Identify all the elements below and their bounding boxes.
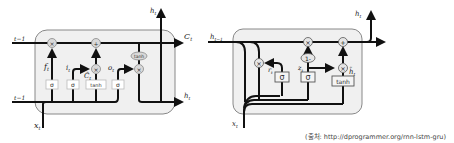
svg-text:σ: σ (116, 81, 120, 88)
gru-update-mul-op: × (304, 38, 313, 47)
lstm-forget-gate: σ (46, 80, 58, 89)
lstm-tanh-op: tanh (131, 52, 147, 60)
svg-text:tanh: tanh (134, 54, 144, 59)
svg-text:+: + (93, 40, 98, 47)
svg-text:σ: σ (305, 73, 310, 82)
lstm-cell: × + × × tanh σ σ tanh (12, 7, 193, 131)
gru-cell: × + × × 1- σ σ tanh (208, 10, 384, 129)
lstm-add-op: + (92, 39, 101, 48)
svg-text:σ: σ (279, 73, 284, 82)
svg-text:×: × (136, 66, 141, 73)
lstm-input-gate: σ (67, 80, 79, 89)
lstm-x-label: xt (34, 121, 42, 131)
gru-update-gate: σ (301, 72, 315, 82)
gru-one-minus-op: 1- (301, 54, 315, 63)
svg-text:+: + (340, 39, 345, 47)
svg-text:×: × (256, 60, 261, 68)
gru-reset-mul-op: × (255, 59, 264, 68)
gru-candidate-gate: tanh (332, 76, 354, 86)
svg-text:1-: 1- (305, 55, 311, 62)
lstm-h-prev-label: t−1 (14, 94, 25, 101)
svg-text:σ: σ (50, 81, 54, 88)
svg-text:×: × (93, 66, 98, 73)
svg-text:×: × (305, 39, 310, 47)
gru-h-prev-label: ht−1 (210, 33, 223, 42)
lstm-forget-mul-op: × (48, 39, 57, 48)
lstm-h-top-label: ht (150, 7, 157, 16)
svg-text:tanh: tanh (90, 82, 101, 88)
lstm-output-mul-op: × (135, 65, 144, 74)
svg-text:σ: σ (71, 81, 75, 88)
gru-reset-gate: σ (275, 72, 289, 82)
gru-add-op: + (339, 38, 348, 47)
gru-h-top-output (367, 12, 371, 42)
gru-x-label: xt (232, 120, 238, 129)
lstm-output-gate: σ (112, 80, 124, 89)
lstm-h-right-label: ht (184, 92, 191, 101)
lstm-c-prev-label: t−1 (14, 35, 25, 42)
gru-cand-mul-op: × (339, 64, 348, 73)
lstm-candidate-gate: tanh (86, 80, 106, 89)
svg-text:×: × (340, 65, 345, 73)
gru-h-top-label: ht (355, 10, 362, 19)
svg-text:tanh: tanh (336, 78, 350, 85)
source-caption: (출처: http://dprogrammer.org/rnn-lstm-gru… (305, 131, 446, 141)
svg-text:×: × (49, 40, 54, 47)
lstm-c-out-label: Ct (184, 32, 193, 42)
lstm-input-mul-op: × (92, 65, 101, 74)
diagram-canvas: × + × × tanh σ σ tanh (0, 0, 454, 143)
